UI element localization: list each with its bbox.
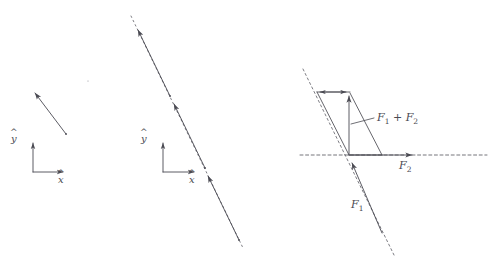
f1-F-glyph: F (351, 198, 359, 211)
resultant-label-leader-line (351, 118, 374, 124)
vector-tail-dot (65, 133, 67, 135)
resultant-F1-subscript: 1 (385, 117, 390, 126)
panel-single-vector (33, 80, 89, 172)
y-hat-caret-left: ^ (10, 128, 18, 137)
sliding-vector-2 (174, 104, 205, 168)
sliding-vector-3-tail-dot (238, 239, 240, 241)
stray-dot (87, 80, 88, 81)
sliding-vector-3 (208, 176, 239, 240)
sliding-vector-1-tail-dot (169, 95, 171, 97)
x-hat-caret-left: ^ (57, 169, 65, 178)
force-arrow (35, 93, 66, 134)
resultant-label: F1 + F2 (377, 112, 418, 126)
f2-F-glyph: F (399, 159, 407, 172)
sliding-vector-1 (138, 30, 170, 96)
resultant-F1-glyph: F (377, 111, 385, 124)
y-hat-caret-mid: ^ (140, 128, 148, 137)
plus-sign: + (393, 111, 402, 124)
x-axis-label-left: ^x (58, 175, 64, 185)
f2-subscript: 2 (407, 165, 412, 174)
f1-label: F1 (351, 199, 363, 213)
f2-label: F2 (399, 160, 411, 174)
sliding-vector-2-tail-dot (204, 167, 206, 169)
resultant-F2-subscript: 2 (413, 117, 418, 126)
f1-subscript: 1 (359, 204, 364, 213)
parallelogram-edge-left (317, 92, 349, 155)
y-axis-label-left: ^y (11, 134, 17, 144)
x-hat-caret-mid: ^ (188, 169, 196, 178)
diagonal-line-of-action-dashed (303, 69, 394, 255)
y-axis-label-mid: ^y (141, 134, 147, 144)
panel-parallelogram (300, 69, 487, 255)
panel-line-of-action (131, 16, 243, 248)
vector-figure-canvas (0, 0, 491, 269)
x-axis-label-mid: ^x (189, 175, 195, 185)
